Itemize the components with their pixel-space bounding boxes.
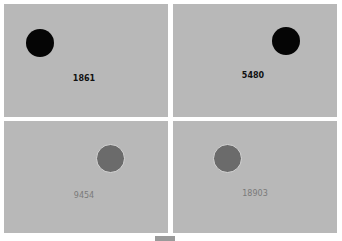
panel-label: 1861 [73, 74, 95, 83]
panel-top-right: 5480 [173, 4, 337, 117]
black-circle-icon [272, 27, 300, 55]
panel-label: 9454 [74, 191, 94, 200]
panel-bottom-left: 9454 [4, 121, 168, 233]
panel-label: 5480 [242, 71, 264, 80]
gray-circle-icon [96, 144, 125, 173]
black-circle-icon [26, 29, 54, 57]
gray-circle-icon [213, 144, 242, 173]
footer-mark [155, 236, 175, 241]
panel-bottom-right: 18903 [173, 121, 337, 233]
panel-top-left: 1861 [4, 4, 168, 117]
panel-label: 18903 [242, 189, 267, 198]
